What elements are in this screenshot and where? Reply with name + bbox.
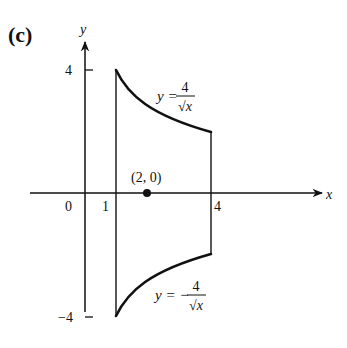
upper-curve-numerator: 4	[182, 80, 189, 95]
lower-curve-lhs: y = −	[153, 287, 189, 303]
y-tick-label-4: 4	[65, 63, 72, 78]
upper-curve-lhs: y =	[155, 88, 178, 104]
upper-curve-label: y = 4 √x	[155, 80, 195, 114]
point-2-0	[143, 189, 151, 197]
origin-label: 0	[65, 199, 72, 214]
region-diagram: (c) y x 4 −4 0 1 4 y = 4 √x (2, 0) y = −…	[0, 0, 347, 348]
panel-label: (c)	[8, 22, 32, 47]
point-label: (2, 0)	[131, 170, 162, 186]
y-tick-label-neg4: −4	[58, 310, 73, 325]
x-tick-label-4: 4	[214, 199, 221, 214]
lower-curve-denominator: √x	[189, 298, 204, 313]
y-axis-label: y	[78, 22, 87, 37]
x-axis-label: x	[325, 187, 333, 202]
upper-curve-denominator: √x	[178, 99, 193, 114]
lower-curve-label: y = − 4 √x	[153, 279, 206, 313]
x-tick-label-1: 1	[102, 199, 109, 214]
lower-curve-numerator: 4	[193, 279, 200, 294]
